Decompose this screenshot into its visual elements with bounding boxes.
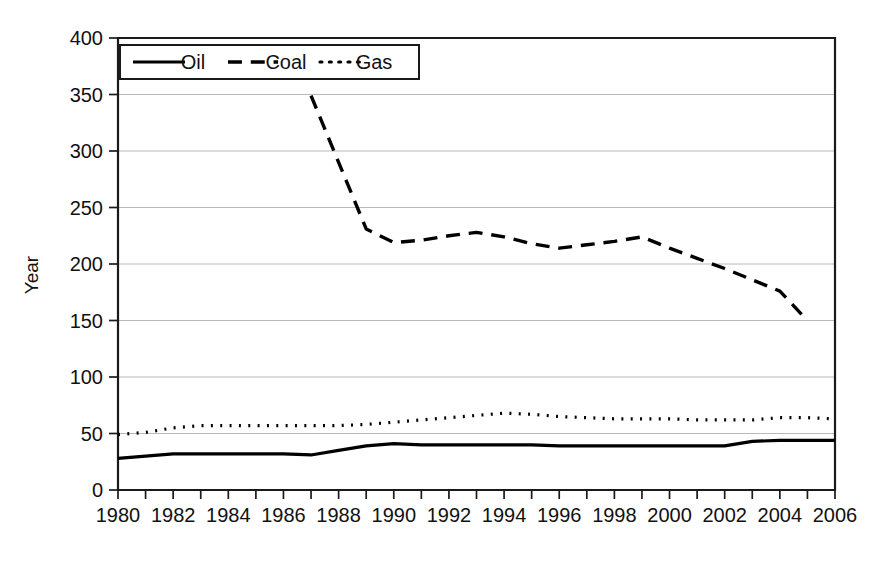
- x-tick-label: 1988: [316, 504, 361, 526]
- y-axis-ticks: [109, 38, 118, 490]
- chart-container: 050100150200250300350400 198019821984198…: [0, 0, 869, 561]
- line-chart: 050100150200250300350400 198019821984198…: [0, 0, 869, 561]
- x-tick-label: 2006: [813, 504, 858, 526]
- y-axis-title-text: Year: [21, 255, 42, 294]
- y-tick-label: 150: [70, 310, 103, 332]
- x-tick-label: 1980: [96, 504, 141, 526]
- x-tick-label: 1984: [206, 504, 251, 526]
- y-tick-label: 250: [70, 197, 103, 219]
- x-tick-label: 1998: [592, 504, 637, 526]
- legend-label-coal[interactable]: Coal: [265, 51, 306, 73]
- x-tick-label: 1990: [372, 504, 417, 526]
- legend-label-gas[interactable]: Gas: [356, 51, 393, 73]
- x-tick-label: 2000: [647, 504, 692, 526]
- y-tick-label: 0: [92, 479, 103, 501]
- gridlines: [118, 95, 835, 434]
- y-tick-label: 100: [70, 366, 103, 388]
- x-tick-label: 2002: [702, 504, 747, 526]
- x-axis-ticks: [118, 490, 835, 499]
- x-axis-tick-labels: 1980198219841986198819901992199419961998…: [96, 504, 858, 526]
- x-tick-label: 1992: [427, 504, 472, 526]
- y-axis-title: Year: [21, 255, 42, 294]
- y-tick-label: 200: [70, 253, 103, 275]
- x-tick-label: 2004: [758, 504, 803, 526]
- y-axis-tick-labels: 050100150200250300350400: [70, 27, 103, 501]
- series-line-coal: [311, 96, 807, 321]
- y-tick-label: 400: [70, 27, 103, 49]
- x-tick-label: 1986: [261, 504, 306, 526]
- x-tick-label: 1996: [537, 504, 582, 526]
- series-line-oil: [118, 440, 835, 458]
- x-tick-label: 1994: [482, 504, 527, 526]
- x-tick-label: 1982: [151, 504, 196, 526]
- series-line-gas: [118, 413, 835, 434]
- y-tick-label: 300: [70, 140, 103, 162]
- data-series: [118, 96, 835, 459]
- y-tick-label: 350: [70, 84, 103, 106]
- legend-label-oil[interactable]: Oil: [181, 51, 205, 73]
- y-tick-label: 50: [81, 423, 103, 445]
- chart-legend[interactable]: OilCoalGas: [120, 45, 419, 79]
